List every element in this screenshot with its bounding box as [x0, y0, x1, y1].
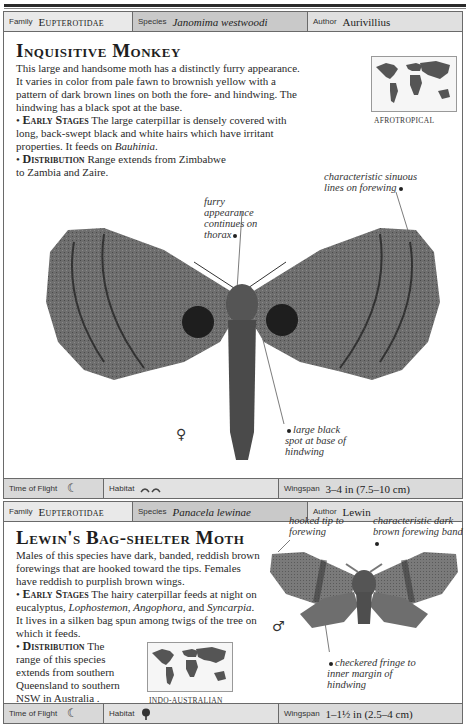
description-text: This large and handsome moth has a disti…: [16, 62, 306, 114]
species-value: Panacela lewinae: [172, 506, 251, 518]
habitat-label: Habitat: [109, 484, 134, 493]
species-cell: Species Janomima westwoodi: [133, 12, 308, 31]
early-stages-paragraph: • Early Stages The large caterpillar is …: [16, 114, 306, 153]
early-stages-heading: Early Stages: [23, 587, 89, 601]
wingspan-value: 3–4 in (7.5–10 cm): [326, 483, 410, 495]
annotation-text: checkered fringe to inner margin of hind…: [327, 657, 416, 690]
species-cell: Species Panacela lewinae: [133, 502, 308, 521]
host-plant-2: Angophora: [133, 601, 183, 613]
family-label: Family: [9, 507, 33, 516]
species-label: Species: [138, 507, 166, 516]
species-entry-lewins-bag-shelter-moth: Family Eupterotidae Species Panacela lew…: [3, 501, 463, 724]
habitat-cell: Habitat: [104, 704, 279, 723]
description-text: Males of this species have dark, banded,…: [16, 549, 261, 588]
separator: , and: [183, 601, 207, 613]
family-value: Eupterotidae: [39, 16, 104, 28]
entry-title: Lewin's Bag-shelter Moth: [16, 527, 244, 549]
world-map-afrotropical: [371, 56, 457, 112]
grassland-icon: [140, 485, 162, 493]
wingspan-cell: Wingspan 3–4 in (7.5–10 cm): [279, 479, 462, 498]
attributes-bar: Time of Flight ☾ Habitat Wingspan 3–4 in…: [4, 478, 462, 498]
map-region-label: AFROTROPICAL: [374, 116, 434, 125]
wingspan-label: Wingspan: [284, 484, 320, 493]
annotation-checkered-fringe: checkered fringe to inner margin of hind…: [327, 657, 417, 690]
species-value: Janomima westwoodi: [172, 16, 267, 28]
pointer-dot: [329, 662, 333, 666]
early-stages-end: .: [155, 140, 158, 152]
early-stages-paragraph: • Early Stages The hairy caterpillar fee…: [16, 588, 261, 640]
time-of-flight-label: Time of Flight: [9, 709, 57, 718]
distribution-heading: Distribution: [23, 639, 85, 653]
habitat-cell: Habitat: [104, 479, 279, 498]
taxonomy-bar: Family Eupterotidae Species Janomima wes…: [4, 12, 462, 32]
time-of-flight-cell: Time of Flight ☾: [4, 479, 104, 498]
wingspan-cell: Wingspan 1–1½ in (2.5–4 cm): [279, 704, 462, 723]
species-entry-inquisitive-monkey: Family Eupterotidae Species Janomima wes…: [3, 11, 463, 499]
annotation-text: characteristic sinuous lines on forewing: [324, 171, 417, 193]
family-cell: Family Eupterotidae: [4, 12, 133, 31]
author-cell: Author Aurivillius: [308, 12, 462, 31]
world-map-icon: [148, 643, 232, 691]
author-label: Author: [313, 17, 337, 26]
entry-title: Inquisitive Monkey: [16, 40, 181, 62]
distribution-paragraph: • Distribution Range extends from Zimbab…: [16, 153, 236, 179]
species-label: Species: [138, 17, 166, 26]
distribution-paragraph: • Distribution The range of this species…: [16, 640, 121, 705]
moon-icon: ☾: [67, 481, 78, 496]
page-header-rule: [4, 4, 466, 7]
host-plant-3: Syncarpia: [207, 601, 252, 613]
moth-illustration-janomima: [44, 192, 444, 472]
host-plant-1: Lophostemon: [69, 601, 128, 613]
annotation-sinuous-lines: characteristic sinuous lines on forewing: [324, 171, 434, 193]
tree-icon: [140, 708, 152, 720]
wingspan-value: 1–1½ in (2.5–4 cm): [326, 708, 413, 720]
family-cell: Family Eupterotidae: [4, 502, 133, 521]
sex-symbol-female: ♀: [176, 426, 186, 442]
moth-illustration-panacela: [264, 532, 464, 652]
wingspan-label: Wingspan: [284, 709, 320, 718]
entry-description: This large and handsome moth has a disti…: [16, 62, 306, 179]
page-header-rule-thin: [4, 8, 466, 9]
sex-symbol-male: ♂: [272, 618, 285, 634]
world-map-icon: [372, 57, 456, 111]
family-value: Eupterotidae: [39, 506, 104, 518]
host-plant: Bauhinia: [115, 140, 155, 152]
early-stages-heading: Early Stages: [23, 113, 89, 127]
world-map-indo-australian: [147, 642, 233, 692]
pointer-dot: [399, 187, 403, 191]
distribution-heading: Distribution: [23, 152, 85, 166]
attributes-bar: Time of Flight ☾ Habitat Wingspan 1–1½ i…: [4, 703, 462, 723]
family-label: Family: [9, 17, 33, 26]
habitat-label: Habitat: [109, 709, 134, 718]
time-of-flight-label: Time of Flight: [9, 484, 57, 493]
moon-icon: ☾: [67, 706, 78, 721]
author-value: Aurivillius: [343, 16, 391, 28]
time-of-flight-cell: Time of Flight ☾: [4, 704, 104, 723]
